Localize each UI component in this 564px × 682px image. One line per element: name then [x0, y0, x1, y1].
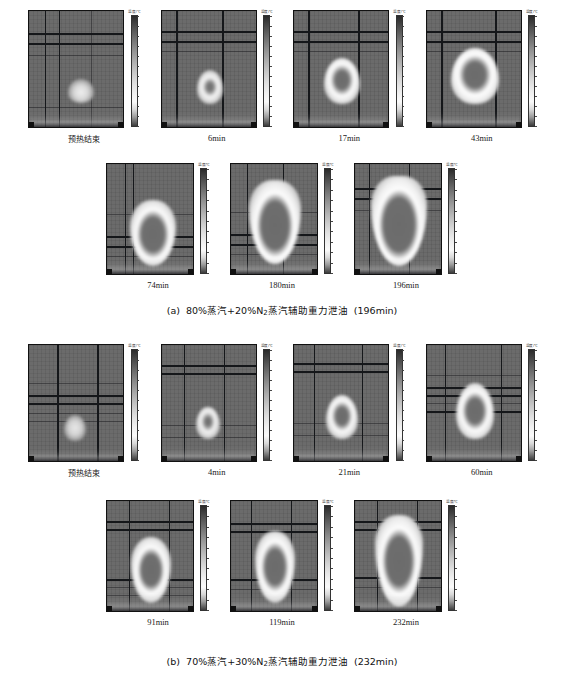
- grid-line-h: [294, 363, 388, 365]
- colorbar-label: 温度/℃: [198, 500, 210, 504]
- grid-line-h: [162, 365, 256, 367]
- steam-chamber: [324, 58, 360, 104]
- colorbar: 温度/℃: [393, 344, 405, 461]
- corner-marker: [162, 122, 167, 127]
- contour-plot: 温度/℃: [426, 10, 538, 128]
- corner-marker: [312, 606, 317, 611]
- plot-axes: [230, 163, 318, 275]
- plot-axes: [426, 10, 522, 128]
- panel-a1-1: 温度/℃ 预热结束: [18, 10, 151, 144]
- colorbar: 温度/℃: [393, 10, 405, 127]
- plot-axes: [28, 344, 124, 462]
- corner-marker: [516, 456, 521, 461]
- steam-chamber: [371, 176, 427, 266]
- panel-time-label: 21min: [338, 467, 360, 477]
- grid-line-v: [184, 345, 185, 461]
- grid-line-v: [308, 11, 310, 127]
- panel-a1-2: 温度/℃ 6min: [151, 10, 284, 144]
- colorbar: 温度/℃: [446, 500, 458, 611]
- contour-plot: 温度/℃: [293, 10, 405, 128]
- caption-duration: (232min): [354, 656, 397, 667]
- grid-line-v: [445, 345, 446, 461]
- steam-chamber: [451, 48, 499, 104]
- corner-marker: [251, 456, 256, 461]
- contour-plot: 温度/℃: [106, 500, 210, 612]
- plot-axes: [28, 10, 124, 128]
- plot-axes: [293, 10, 389, 128]
- grid-line-v: [97, 345, 99, 461]
- base-boundary: [231, 269, 317, 274]
- colorbar-label: 温度/℃: [526, 10, 538, 14]
- colorbar: 温度/℃: [128, 10, 140, 127]
- colorbar-label: 温度/℃: [261, 10, 273, 14]
- plot-axes: [106, 500, 194, 612]
- panel-time-label: 74min: [147, 280, 169, 290]
- corner-marker: [29, 456, 34, 461]
- grid-line-h: [29, 403, 123, 405]
- corner-marker: [436, 269, 441, 274]
- colorbar-label: 温度/℃: [322, 500, 334, 504]
- corner-marker: [355, 606, 360, 611]
- grid-line-h: [29, 43, 123, 45]
- base-boundary: [162, 122, 256, 127]
- caption-text-post: 蒸汽辅助重力泄油: [268, 305, 348, 316]
- corner-marker: [436, 606, 441, 611]
- colorbar-ticks: [535, 350, 537, 461]
- panel-b1-4: 温度/℃ 60min: [416, 344, 549, 478]
- plot-axes: [106, 163, 194, 275]
- panel-time-label: 预热结束: [68, 467, 100, 478]
- grid-line-v: [501, 345, 502, 461]
- colorbar-label: 温度/℃: [393, 10, 405, 14]
- colorbar: 温度/℃: [261, 344, 273, 461]
- corner-marker: [294, 456, 299, 461]
- panel-row-a1: 温度/℃ 预热结束: [18, 10, 548, 144]
- mesh-texture: [162, 345, 256, 461]
- contour-plot: 温度/℃: [230, 163, 334, 275]
- panel-time-label: 119min: [269, 617, 295, 627]
- colorbar: 温度/℃: [198, 163, 210, 274]
- panel-a1-3: 温度/℃ 17min: [283, 10, 416, 144]
- contour-plot: 温度/℃: [230, 500, 334, 612]
- caption-text-pre: 80%蒸汽+20%N: [186, 305, 263, 316]
- colorbar: 温度/℃: [526, 344, 538, 461]
- colorbar-label: 温度/℃: [261, 344, 273, 348]
- colorbar-ticks: [455, 169, 457, 274]
- colorbar-label: 温度/℃: [128, 344, 140, 348]
- grid-line-v: [358, 11, 360, 127]
- contour-plot: 温度/℃: [354, 500, 458, 612]
- base-boundary: [294, 122, 388, 127]
- corner-marker: [427, 122, 432, 127]
- corner-marker: [251, 122, 256, 127]
- colorbar: 温度/℃: [128, 344, 140, 461]
- steam-chamber: [197, 70, 223, 104]
- colorbar-ticks: [535, 16, 537, 127]
- corner-marker: [231, 606, 236, 611]
- base-boundary: [162, 456, 256, 461]
- base-boundary: [231, 606, 317, 611]
- sagd-temperature-figure: 温度/℃ 预热结束: [0, 0, 564, 682]
- panel-time-label: 196min: [393, 280, 419, 290]
- contour-plot: 温度/℃: [161, 344, 273, 462]
- base-boundary: [107, 269, 193, 274]
- caption-prefix: (a): [167, 305, 180, 316]
- contour-plot: 温度/℃: [161, 10, 273, 128]
- panel-time-label: 预热结束: [68, 133, 100, 144]
- steam-chamber: [249, 180, 301, 264]
- contour-plot: 温度/℃: [426, 344, 538, 462]
- colorbar: 温度/℃: [198, 500, 210, 611]
- caption-prefix: (b): [167, 656, 180, 667]
- base-boundary: [427, 122, 521, 127]
- steam-chamber: [68, 79, 94, 103]
- corner-marker: [383, 122, 388, 127]
- grid-line-v: [222, 11, 224, 127]
- panel-time-label: 17min: [338, 133, 360, 143]
- corner-marker: [427, 456, 432, 461]
- corner-marker: [29, 122, 34, 127]
- colorbar-label: 温度/℃: [322, 163, 334, 167]
- corner-marker: [188, 606, 193, 611]
- colorbar-label: 温度/℃: [128, 10, 140, 14]
- plot-axes: [230, 500, 318, 612]
- steam-chamber: [375, 515, 423, 607]
- colorbar-ticks: [402, 350, 404, 461]
- plot-axes: [426, 344, 522, 462]
